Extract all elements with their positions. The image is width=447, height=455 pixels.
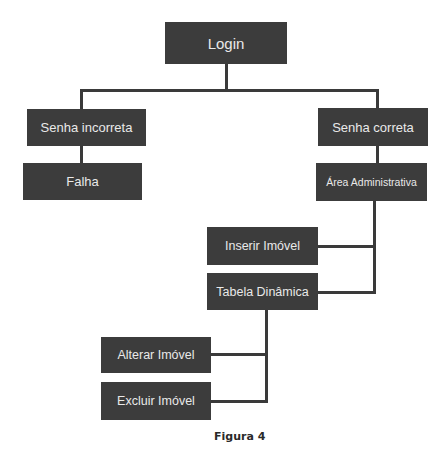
connector-to-inserir (318, 245, 376, 248)
connector-to-senha-correta (376, 89, 379, 109)
node-alterar-imovel: Alterar Imóvel (101, 337, 211, 373)
connector-to-area-admin (376, 146, 379, 163)
connector-to-senha-incorreta (80, 89, 83, 109)
node-label: Excluir Imóvel (117, 394, 195, 408)
node-label: Login (208, 35, 245, 52)
node-excluir-imovel: Excluir Imóvel (101, 382, 211, 420)
node-label: Tabela Dinâmica (216, 285, 308, 299)
node-falha: Falha (23, 163, 142, 200)
node-senha-correta: Senha correta (318, 108, 428, 146)
flowchart-diagram: Login Senha incorreta Falha Senha corret… (0, 0, 447, 455)
node-label: Senha correta (332, 120, 414, 135)
connector-to-excluir (211, 400, 268, 403)
node-label: Falha (66, 174, 99, 189)
node-area-administrativa: Área Administrativa (316, 163, 427, 201)
connector-to-falha (80, 146, 83, 163)
figure-caption: Figura 4 (214, 430, 265, 443)
node-label: Senha incorreta (41, 120, 133, 135)
node-label: Alterar Imóvel (117, 348, 194, 362)
node-senha-incorreta: Senha incorreta (27, 109, 146, 146)
connector-to-tabela (318, 291, 376, 294)
node-label: Inserir Imóvel (225, 239, 300, 253)
connector-tabela-down (265, 310, 268, 403)
node-inserir-imovel: Inserir Imóvel (207, 227, 318, 265)
connector-login-down (225, 64, 228, 91)
node-login: Login (165, 22, 287, 64)
connector-horizontal-top (80, 89, 379, 92)
node-label: Área Administrativa (326, 176, 416, 188)
connector-to-alterar (211, 353, 268, 356)
node-tabela-dinamica: Tabela Dinâmica (207, 273, 318, 310)
